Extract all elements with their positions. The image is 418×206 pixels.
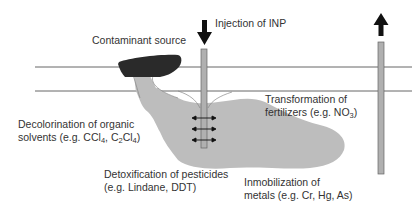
label-decolorination: Decolorination of organic solvents (e.g.…	[18, 118, 140, 144]
transformation-line2: fertilizers (e.g. NO3)	[265, 106, 357, 119]
extraction-arrow-icon	[374, 13, 389, 36]
injection-well	[201, 49, 207, 148]
detox-line1: Detoxification of pesticides	[104, 168, 228, 181]
extraction-well	[378, 42, 384, 174]
decolorination-line1: Decolorination of organic	[18, 118, 140, 131]
immob-line2: metals (e.g. Cr, Hg, As)	[244, 189, 353, 202]
contaminant-source	[118, 55, 181, 77]
decolorination-line2: solvents (e.g. CCl4, C2Cl4)	[18, 131, 140, 144]
immob-line1: Inmobilization of	[244, 176, 353, 189]
label-injection: Injection of INP	[215, 17, 286, 30]
detox-line2: (e.g. Lindane, DDT)	[104, 181, 228, 194]
label-transformation: Transformation of fertilizers (e.g. NO3)	[265, 93, 357, 119]
transformation-line1: Transformation of	[265, 93, 357, 106]
injection-arrow-icon	[197, 20, 212, 45]
label-immobilization: Inmobilization of metals (e.g. Cr, Hg, A…	[244, 176, 353, 202]
label-contaminant-source: Contaminant source	[92, 34, 186, 47]
label-detoxification: Detoxification of pesticides (e.g. Linda…	[104, 168, 228, 194]
